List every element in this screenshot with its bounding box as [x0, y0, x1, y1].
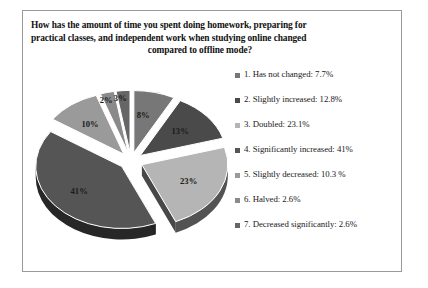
legend-item[interactable]: 3. Doubled: 23.1% [235, 119, 403, 144]
pie-chart: 8%13%23%41%10%2%3% [23, 63, 239, 268]
pie-slice-percent-label: 3% [114, 93, 127, 103]
legend-swatch-icon [235, 98, 240, 103]
legend-swatch-icon [235, 173, 240, 178]
legend-label: 4. Significantly increased: 41% [244, 144, 353, 154]
legend-label: 2. Slightly increased: 12.8% [244, 94, 342, 104]
legend-swatch-icon [235, 223, 240, 228]
legend-label: 3. Doubled: 23.1% [244, 119, 310, 129]
legend-item[interactable]: 2. Slightly increased: 12.8% [235, 94, 403, 119]
legend-label: 1. Has not changed: 7.7% [244, 69, 333, 79]
chart-figure-panel: How has the amount of time you spent doi… [22, 10, 402, 272]
chart-title-line-3: compared to offline mode? [31, 44, 369, 57]
legend-swatch-icon [235, 123, 240, 128]
chart-title-line-1: How has the amount of time you spent doi… [31, 19, 369, 32]
chart-title-line-2: practical classes, and independent work … [31, 32, 369, 45]
legend-swatch-icon [235, 73, 240, 78]
chart-legend: 1. Has not changed: 7.7%2. Slightly incr… [235, 69, 403, 244]
pie-slice-percent-label: 2% [100, 95, 113, 105]
legend-swatch-icon [235, 198, 240, 203]
legend-item[interactable]: 5. Slightly decreased: 10.3 % [235, 169, 403, 194]
pie-slice-percent-label: 10% [81, 119, 98, 129]
legend-item[interactable]: 6. Halved: 2.6% [235, 194, 403, 219]
legend-label: 7. Decreased significantly: 2.6% [244, 219, 357, 229]
legend-item[interactable]: 1. Has not changed: 7.7% [235, 69, 403, 94]
pie-slice-percent-label: 23% [180, 176, 197, 186]
legend-label: 5. Slightly decreased: 10.3 % [244, 169, 346, 179]
legend-swatch-icon [235, 148, 240, 153]
legend-item[interactable]: 4. Significantly increased: 41% [235, 144, 403, 169]
legend-label: 6. Halved: 2.6% [244, 194, 300, 204]
chart-title: How has the amount of time you spent doi… [31, 19, 369, 57]
pie-chart-svg [23, 63, 239, 268]
pie-slice-percent-label: 41% [71, 186, 88, 196]
legend-item[interactable]: 7. Decreased significantly: 2.6% [235, 219, 403, 244]
pie-slice-percent-label: 13% [172, 126, 189, 136]
pie-slice-percent-label: 8% [137, 110, 150, 120]
